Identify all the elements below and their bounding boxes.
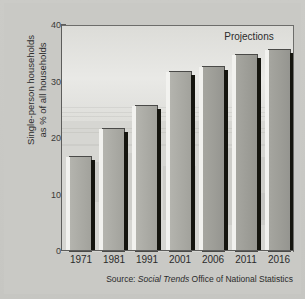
y-axis-title-line-2: as % of all households <box>37 5 49 175</box>
chart-figure: Single-person households as % of all hou… <box>0 0 305 299</box>
bar-shadow <box>224 70 228 251</box>
plot-area <box>61 25 294 252</box>
source-publication: Social Trends <box>138 274 189 284</box>
bar-shadow <box>257 58 261 251</box>
x-axis-label-2016: 2016 <box>259 254 299 265</box>
y-axis-tick-label: 40 <box>38 20 61 30</box>
y-axis-tick-label: 30 <box>38 77 61 87</box>
bar-1981 <box>102 128 125 252</box>
bar-highlight <box>199 67 203 251</box>
bar-highlight <box>166 72 170 251</box>
y-axis-title-line-1: Single-person households <box>25 5 37 175</box>
source-prefix: Source: <box>106 274 135 284</box>
bar-shadow <box>91 160 95 251</box>
source-note: Source: Social Trends Office of National… <box>4 274 293 284</box>
bar-1991 <box>135 105 158 252</box>
source-organisation: Office of National Statistics <box>192 274 293 284</box>
bar-highlight <box>265 50 269 251</box>
projections-annotation: Projections <box>209 31 289 42</box>
bar-shadow <box>124 132 128 251</box>
bar-highlight <box>132 106 136 251</box>
bar-2006 <box>202 66 225 252</box>
bar-2011 <box>235 54 258 252</box>
bar-shadow <box>290 53 294 251</box>
chart-card: Single-person households as % of all hou… <box>4 3 301 294</box>
bar-shadow <box>157 109 161 251</box>
y-axis-tick-label: 0 <box>38 246 61 256</box>
bar-highlight <box>232 55 236 251</box>
y-axis-tick-label: 20 <box>38 133 61 143</box>
bar-highlight <box>99 129 103 251</box>
y-axis-title: Single-person households as % of all hou… <box>25 5 49 175</box>
y-axis-tick-label: 10 <box>38 190 61 200</box>
y-axis-line <box>61 25 62 251</box>
bar-highlight <box>66 157 70 251</box>
bar-shadow <box>191 75 195 251</box>
bar-2016 <box>268 49 291 252</box>
bar-1971 <box>69 156 92 252</box>
bar-2001 <box>169 71 192 252</box>
x-axis-line <box>61 250 294 251</box>
